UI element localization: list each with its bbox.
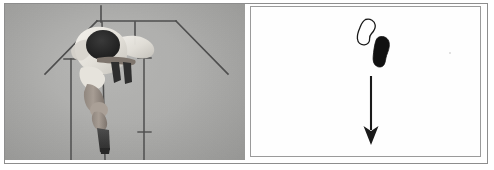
figure-root [0, 0, 494, 170]
schematic-content [248, 4, 484, 160]
outline-blob-shape [357, 19, 375, 45]
paper-speck [449, 52, 451, 54]
panel-schematic [248, 4, 484, 160]
solid-blob-shape [373, 37, 389, 67]
panel-photograph [5, 4, 245, 160]
down-arrow-icon [364, 76, 379, 145]
photo-vignette [5, 4, 245, 160]
